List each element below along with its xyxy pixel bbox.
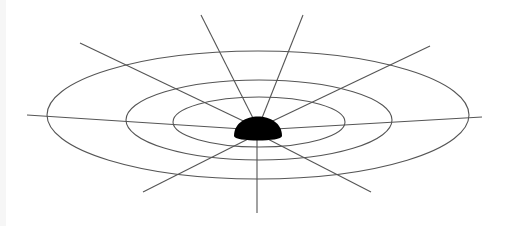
gravity-well-diagram (0, 0, 506, 226)
radial-line-3 (80, 43, 258, 128)
curvature-rings (47, 51, 469, 179)
radial-line-2 (258, 15, 303, 128)
radial-line-4 (258, 46, 430, 128)
radial-grid-lines (27, 15, 482, 213)
radial-line-5 (27, 115, 258, 130)
radial-line-1 (201, 15, 258, 128)
radial-line-7 (143, 134, 258, 192)
radial-line-8 (258, 134, 371, 192)
radial-line-6 (258, 117, 482, 130)
diagram-canvas (0, 0, 506, 226)
